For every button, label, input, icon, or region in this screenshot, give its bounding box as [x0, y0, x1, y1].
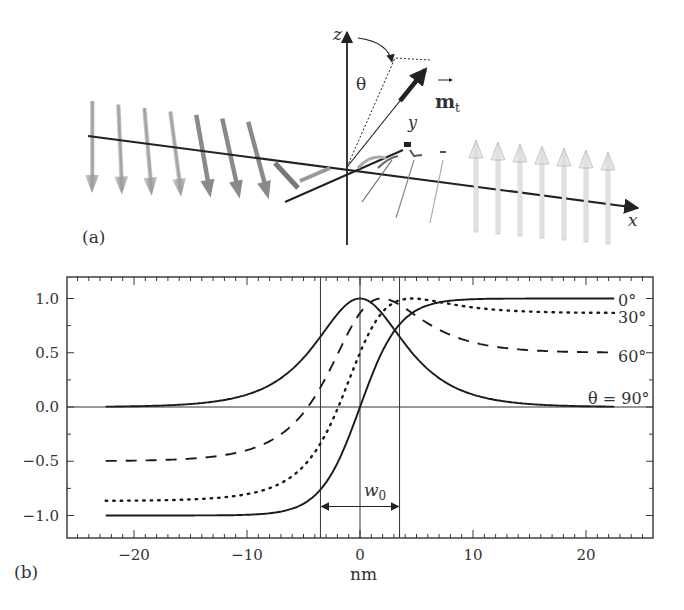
- x-tick-label: 0: [355, 546, 365, 564]
- spin-arrow-up: [535, 146, 549, 238]
- vector-label: mt: [435, 90, 460, 115]
- curve-label-60deg: 60°: [618, 347, 646, 366]
- theta-label: θ: [356, 74, 366, 94]
- curve-label-90deg: θ = 90°: [588, 389, 650, 408]
- x-tick-label: −20: [118, 546, 150, 564]
- panel-a-domain-wall-diagram: z θ mt y x (a): [82, 24, 638, 247]
- magnetization-vector: [400, 70, 425, 101]
- panel-b-label: (b): [14, 562, 38, 582]
- theta-arc-arrow: [358, 38, 392, 62]
- x-tick-label: −10: [231, 546, 263, 564]
- w0-label: w0: [364, 480, 386, 503]
- curve-label-30deg: 30°: [618, 308, 646, 327]
- y-tick-label: −0.5: [23, 452, 59, 470]
- spin-arrow-up: [557, 148, 571, 240]
- spin-arrow-down: [114, 104, 129, 194]
- spin-arrow-down: [246, 121, 275, 201]
- spin-arrow-down: [142, 108, 159, 196]
- x-axis-title: nm: [350, 564, 377, 584]
- y-tick-label: 0.0: [35, 398, 59, 416]
- spin-arrow-down: [220, 118, 247, 200]
- spin-arrow-up: [601, 152, 615, 244]
- y-axis-label: y: [407, 113, 418, 132]
- spin-arrows-up: [469, 140, 615, 244]
- spin-arrow-up: [513, 144, 527, 236]
- spin-arrow-up: [579, 150, 593, 242]
- x-tick-label: 10: [463, 546, 482, 564]
- transition-arrows: [275, 142, 446, 223]
- figure: z θ mt y x (a) −20−1001020−1.0−0.50.00.5…: [0, 0, 684, 610]
- axis-tick-labels: −20−1001020−1.0−0.50.00.51.0: [23, 290, 596, 565]
- x-axis-label: x: [628, 210, 638, 230]
- spin-arrow-down: [85, 101, 99, 193]
- spin-arrow-down: [194, 115, 217, 199]
- x-tick-label: 20: [576, 546, 595, 564]
- y-tick-label: 1.0: [35, 290, 59, 308]
- y-tick-label: 0.5: [35, 344, 59, 362]
- figure-canvas: z θ mt y x (a) −20−1001020−1.0−0.50.00.5…: [0, 0, 684, 610]
- panel-a-label: (a): [82, 227, 105, 247]
- spin-arrow-down: [168, 111, 188, 198]
- panel-b-profile-chart: −20−1001020−1.0−0.50.00.51.0 w0 0° 30° 6…: [14, 277, 653, 584]
- y-tick-label: −1.0: [23, 507, 59, 525]
- z-axis-label: z: [332, 24, 343, 44]
- spin-arrows-down: [85, 101, 275, 201]
